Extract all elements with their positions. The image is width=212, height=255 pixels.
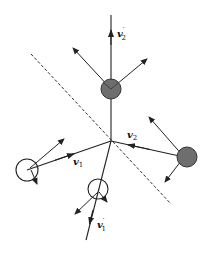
bottom-hollow-circle	[88, 179, 108, 199]
bottom-left-arrow	[75, 192, 98, 214]
v2-arrow	[128, 145, 150, 150]
v1-arrow	[55, 154, 74, 161]
collision-diagram: v′2 v2 v1 v′1	[0, 0, 212, 255]
bottom-right-arrow	[99, 192, 107, 202]
v1-prime-arrow	[90, 210, 94, 224]
label-v2: v2	[127, 129, 137, 142]
label-v1: v1	[73, 156, 83, 169]
label-v2-prime: v′2	[117, 26, 126, 42]
label-v1-prime: v′1	[97, 217, 106, 233]
right-filled-circle	[177, 147, 197, 167]
